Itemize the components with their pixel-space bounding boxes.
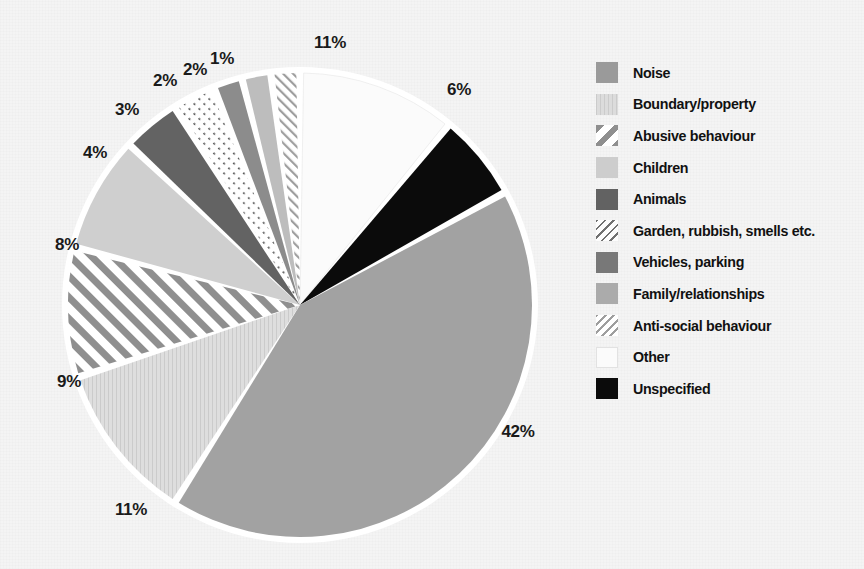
pie-chart-area: 11%6%42%11%9%8%4%3%2%2%1% — [0, 0, 580, 569]
legend-item-label: Anti-social behaviour — [633, 317, 771, 335]
legend-item-label: Noise — [633, 64, 670, 82]
legend-item-label: Animals — [633, 190, 686, 208]
pie-percentage-label: 11% — [314, 33, 346, 53]
legend-swatch-noise — [596, 62, 618, 83]
legend-item-anti-social-behaviour[interactable]: Anti-social behaviour — [596, 310, 858, 342]
legend-item-boundary-property[interactable]: Boundary/property — [596, 89, 858, 121]
legend-item-other[interactable]: Other — [596, 341, 858, 373]
legend-swatch-anti-social-behaviour — [596, 315, 618, 336]
pie-percentage-label: 8% — [55, 235, 79, 255]
legend-swatch-family-relationships — [596, 283, 618, 304]
pie-percentage-label: 2% — [153, 71, 177, 91]
legend-swatch-vehicles-parking — [596, 252, 618, 273]
pie-percentage-label: 11% — [115, 500, 147, 520]
pie-chart-page: 11%6%42%11%9%8%4%3%2%2%1% NoiseBoundary/… — [0, 0, 864, 569]
pie-percentage-label: 3% — [115, 100, 139, 120]
legend-item-label: Children — [633, 159, 688, 177]
pie-percentage-label: 42% — [501, 422, 534, 442]
pie-percentage-label: 4% — [83, 143, 107, 163]
pie-percentage-label: 9% — [57, 372, 81, 392]
legend-swatch-boundary-property — [596, 94, 618, 115]
legend-item-garden-rubbish-smells-etc[interactable]: Garden, rubbish, smells etc. — [596, 215, 858, 247]
legend-item-label: Family/relationships — [633, 285, 764, 303]
chart-legend: NoiseBoundary/propertyAbusive behaviourC… — [596, 57, 858, 405]
legend-item-label: Abusive behaviour — [633, 127, 755, 145]
legend-swatch-abusive-behaviour — [596, 125, 618, 146]
legend-swatch-garden-rubbish-smells — [596, 220, 618, 241]
legend-item-animals[interactable]: Animals — [596, 183, 858, 215]
legend-item-label: Unspecified — [633, 380, 710, 398]
legend-item-unspecified[interactable]: Unspecified — [596, 373, 858, 405]
legend-item-family-relationships[interactable]: Family/relationships — [596, 278, 858, 310]
legend-swatch-animals — [596, 189, 618, 210]
legend-item-label: Vehicles, parking — [633, 253, 744, 271]
legend-item-children[interactable]: Children — [596, 152, 858, 184]
pie-slices-group — [62, 67, 538, 543]
legend-item-label: Boundary/property — [633, 95, 756, 113]
pie-percentage-label: 1% — [210, 49, 234, 69]
pie-percentage-label: 6% — [447, 80, 471, 100]
legend-swatch-unspecified — [596, 378, 618, 399]
legend-item-noise[interactable]: Noise — [596, 57, 858, 89]
legend-item-label: Other — [633, 348, 669, 366]
pie-percentage-label: 2% — [183, 60, 207, 80]
legend-swatch-other — [596, 347, 618, 368]
legend-item-label: Garden, rubbish, smells etc. — [633, 222, 815, 240]
legend-item-abusive-behaviour[interactable]: Abusive behaviour — [596, 120, 858, 152]
legend-swatch-children — [596, 157, 618, 178]
legend-item-vehicles-parking[interactable]: Vehicles, parking — [596, 247, 858, 279]
pie-chart-svg — [0, 0, 580, 569]
